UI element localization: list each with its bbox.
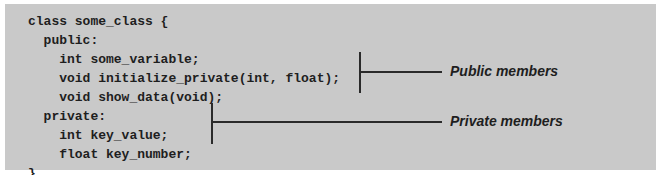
code-line-show-data: void show_data(void); xyxy=(28,88,340,107)
code-line-key-value: int key_value; xyxy=(28,126,340,145)
public-bracket-leader xyxy=(360,71,442,73)
code-line-class-declaration: class some_class { xyxy=(28,12,340,31)
code-line-private-specifier: private: xyxy=(28,107,340,126)
code-line-closing-brace: } xyxy=(28,164,340,175)
public-members-label: Public members xyxy=(450,63,558,79)
code-line-some-variable: int some_variable; xyxy=(28,50,340,69)
code-line-initialize-private: void initialize_private(int, float); xyxy=(28,69,340,88)
private-members-label: Private members xyxy=(450,113,563,129)
private-bracket-vertical xyxy=(211,103,213,144)
class-code-listing: class some_class { public: int some_vari… xyxy=(28,12,340,175)
private-bracket-leader xyxy=(212,121,442,123)
code-line-key-number: float key_number; xyxy=(28,145,340,164)
code-line-public-specifier: public: xyxy=(28,31,340,50)
